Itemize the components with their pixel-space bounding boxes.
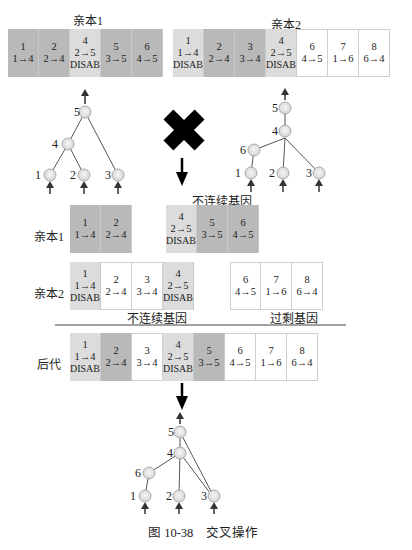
- gene-5: 53→5: [197, 205, 228, 253]
- offspring-network: [139, 412, 220, 514]
- gene-7: 71→6: [261, 262, 292, 310]
- gene-3: 33→4: [132, 262, 163, 310]
- node-label: 3: [105, 168, 111, 183]
- cross-icon: [153, 99, 215, 161]
- gene-1: 11→4DISAB: [70, 333, 101, 381]
- gene-4: 42→5DISAB: [163, 262, 194, 310]
- gene-3: 33→4: [132, 333, 163, 381]
- down-arrow-icon-2: [176, 383, 188, 410]
- node-label: 4: [52, 137, 58, 152]
- gene-4: 42→5DISAB: [166, 205, 197, 253]
- figure-caption: 图 10-38 交叉操作: [148, 522, 258, 541]
- gene-8: 86→4: [287, 333, 318, 381]
- gene-5: 53→5: [194, 333, 225, 381]
- node-label: 1: [35, 168, 41, 183]
- excess-genes-label: 过剩基因: [270, 309, 318, 327]
- node-label: 2: [70, 168, 76, 183]
- offspring-row-label: 后代: [37, 355, 61, 373]
- gene-8: 86→4: [292, 262, 323, 310]
- parent1-aligned-genes-b: 42→5DISAB 53→5 64→5: [166, 205, 259, 253]
- node-label: 5: [168, 425, 174, 440]
- node-label: 1: [235, 166, 241, 181]
- gene-4: 42→5DISAB: [163, 333, 194, 381]
- node-label: 4: [272, 124, 278, 139]
- gene-1: 11→4DISAB: [70, 262, 101, 310]
- gene-2: 22→4: [101, 333, 132, 381]
- parent2-aligned-genes-a: 11→4DISAB 22→4 33→4 42→5DISAB: [70, 262, 194, 310]
- node-label: 1: [130, 489, 136, 504]
- disjoint-genes-label-bottom: 不连续基因: [127, 309, 187, 327]
- parent2-aligned-genes-b: 64→5 71→6 86→4: [230, 262, 323, 310]
- gene-6: 64→5: [228, 205, 259, 253]
- parent2-network: [245, 88, 325, 192]
- parent1-row-label: 亲本1: [34, 227, 64, 245]
- down-arrow-icon: [176, 158, 188, 186]
- gene-2: 22→4: [101, 262, 132, 310]
- node-label: 5: [74, 105, 80, 120]
- offspring-genome: 11→4DISAB 22→4 33→4 42→5DISAB 53→5 64→5 …: [70, 333, 318, 381]
- node-label: 6: [240, 143, 246, 158]
- gene-7: 71→6: [256, 333, 287, 381]
- node-label: 2: [269, 166, 275, 181]
- network-graphics: [0, 0, 412, 550]
- gene-2: 22→4: [101, 205, 132, 253]
- parent2-row-label: 亲本2: [34, 284, 64, 302]
- node-label: 3: [201, 489, 207, 504]
- node-label: 3: [306, 166, 312, 181]
- node-label: 5: [272, 101, 278, 116]
- gene-1: 11→4: [70, 205, 101, 253]
- node-label: 2: [166, 489, 172, 504]
- gene-6: 64→5: [225, 333, 256, 381]
- node-label: 4: [167, 446, 173, 461]
- node-label: 6: [135, 466, 141, 481]
- parent1-aligned-genes-a: 11→4 22→4: [70, 205, 132, 253]
- gene-6: 64→5: [230, 262, 261, 310]
